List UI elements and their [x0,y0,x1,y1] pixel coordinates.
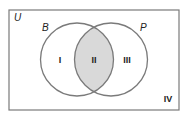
set-b-label: B [42,22,49,33]
region-iii-label: III [123,55,131,65]
region-ii-label: II [91,55,96,65]
set-p-label: P [140,22,147,33]
region-i-label: I [59,55,62,65]
region-iv-label: IV [164,94,173,104]
universe-label: U [14,12,22,23]
venn-diagram: U B P I II III IV [0,0,191,117]
